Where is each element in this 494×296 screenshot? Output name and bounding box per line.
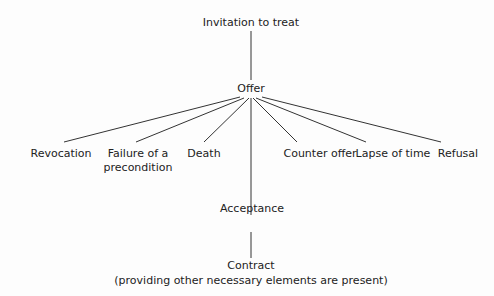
line-offer-lapse [256,98,366,142]
line-offer-refusal [262,97,441,142]
node-invitation-to-treat: Invitation to treat [203,16,299,30]
line-offer-failure [136,98,244,142]
node-contract-note: (providing other necessary elements are … [114,274,387,288]
node-death: Death [187,147,220,161]
node-acceptance: Acceptance [220,202,284,216]
node-contract: Contract [227,259,274,273]
node-failure-line1: Failure of a [104,147,173,161]
node-revocation: Revocation [30,147,91,161]
node-counter-offer: Counter offer [283,147,356,161]
node-refusal: Refusal [438,147,478,161]
node-lapse-of-time: Lapse of time [356,147,431,161]
node-failure-line2: precondition [104,161,173,175]
node-failure-of-precondition: Failure of a precondition [104,147,173,175]
node-offer: Offer [237,82,265,96]
